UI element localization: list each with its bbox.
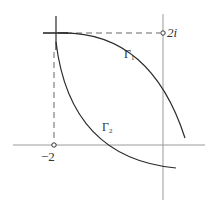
label-gamma1: Γ1 xyxy=(124,48,134,62)
gamma1-curve xyxy=(58,33,185,138)
point-neg2-marker xyxy=(52,143,56,147)
label-2i-text: 2i xyxy=(167,25,177,40)
label-neg2: −2 xyxy=(41,150,55,163)
gamma2-symbol: Γ xyxy=(102,120,109,134)
label-gamma2: Γ2 xyxy=(102,121,112,135)
label-2i: 2i xyxy=(167,26,177,39)
gamma1-subscript: 1 xyxy=(131,54,135,62)
gamma1-symbol: Γ xyxy=(124,47,131,61)
diagram-svg xyxy=(0,0,214,208)
gamma2-curve xyxy=(56,42,176,168)
point-2i-marker xyxy=(161,31,165,35)
contour-diagram: 2i −2 Γ1 Γ2 xyxy=(0,0,214,208)
gamma2-subscript: 2 xyxy=(109,127,113,135)
